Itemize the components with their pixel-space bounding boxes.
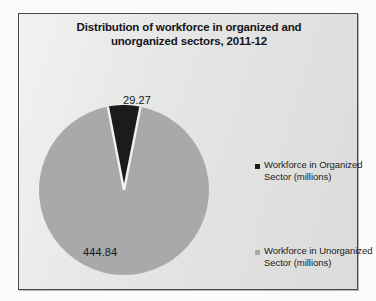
legend-label-unorganized-line-2: Sector (millions) bbox=[264, 257, 331, 268]
chart-title: Distribution of workforce in organized a… bbox=[33, 21, 345, 48]
legend-label-organized: Workforce in Organized Sector (millions) bbox=[264, 159, 363, 183]
legend-swatch-organized-icon bbox=[255, 164, 260, 169]
legend-item-organized[interactable]: Workforce in Organized Sector (millions) bbox=[255, 159, 376, 183]
legend-swatch-unorganized-icon bbox=[255, 250, 260, 255]
chart-title-line-2: unorganized sectors, 2011-12 bbox=[33, 35, 345, 49]
legend-item-unorganized[interactable]: Workforce in Unorganized Sector (million… bbox=[255, 245, 376, 269]
pie-label-unorganized: 444.84 bbox=[83, 246, 117, 258]
legend-label-organized-line-1: Workforce in Organized bbox=[264, 159, 363, 170]
pie-label-organized: 29.27 bbox=[123, 94, 151, 106]
legend-label-unorganized-line-1: Workforce in Unorganized bbox=[264, 245, 372, 256]
legend-label-organized-line-2: Sector (millions) bbox=[264, 171, 331, 182]
pie-chart bbox=[39, 105, 209, 275]
chart-title-line-1: Distribution of workforce in organized a… bbox=[77, 21, 302, 33]
chart-frame: Distribution of workforce in organized a… bbox=[18, 13, 358, 290]
legend-label-unorganized: Workforce in Unorganized Sector (million… bbox=[264, 245, 372, 269]
chart-legend: Workforce in Organized Sector (millions)… bbox=[255, 159, 376, 269]
pie-svg bbox=[39, 105, 209, 275]
